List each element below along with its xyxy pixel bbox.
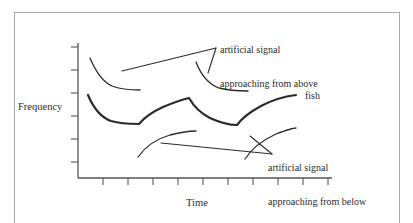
figure-root: Frequency Time artificial signal approac… bbox=[0, 0, 413, 223]
leader-line-above bbox=[122, 48, 216, 73]
annotation-above-line2: approaching from above bbox=[220, 78, 318, 89]
annotation-below-line1: artificial signal bbox=[268, 162, 366, 173]
y-axis-title: Frequency bbox=[18, 101, 62, 113]
leader-line-below bbox=[161, 136, 272, 154]
series-artificial-above-segment-1 bbox=[90, 58, 140, 90]
leader-line-above-arrow bbox=[208, 48, 216, 73]
annotation-above-line1: artificial signal bbox=[220, 44, 318, 55]
x-axis-title: Time bbox=[186, 197, 208, 209]
series-label-fish: fish bbox=[305, 90, 320, 101]
leader-line-above-stroke bbox=[122, 48, 216, 71]
y-axis-ticks bbox=[71, 47, 78, 162]
annotation-below: artificial signal approaching from below bbox=[268, 140, 366, 223]
annotation-above: artificial signal approaching from above bbox=[220, 22, 318, 112]
leader-line-below-stroke bbox=[161, 143, 272, 154]
annotation-below-line2: approaching from below bbox=[268, 196, 366, 207]
